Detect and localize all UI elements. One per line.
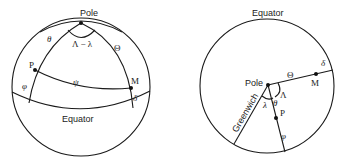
phi-label: φ <box>281 131 286 141</box>
equator-label: Equator <box>62 114 94 124</box>
point-m-dot <box>129 86 133 90</box>
Theta-label: Θ <box>114 43 121 53</box>
theta-label: θ <box>47 34 52 44</box>
pole-label: Pole <box>245 78 263 88</box>
pole-dot <box>79 21 83 25</box>
pole-dot <box>266 83 270 87</box>
point-p-dot <box>274 116 278 120</box>
spherical-geometry-figure: Pole Equator Λ − λ θ Θ ψ φ δ P M Equator… <box>0 0 344 161</box>
point-p-label: P <box>280 108 285 118</box>
point-m-label: M <box>311 78 319 88</box>
greenwich-label: Greenwich <box>230 92 260 134</box>
psi-label: ψ <box>73 77 79 87</box>
point-m-dot <box>314 72 318 76</box>
equator-arc <box>12 91 150 109</box>
point-m-label: M <box>131 76 139 86</box>
angle-arc <box>68 30 95 38</box>
angle-label: Λ − λ <box>72 39 93 49</box>
theta-label: θ <box>273 98 278 108</box>
lambda-label: λ <box>262 100 267 110</box>
delta-label: δ <box>321 58 326 68</box>
right-polar-diagram: Equator Pole Greenwich Θ δ M P Λ λ θ φ <box>200 8 334 153</box>
delta-label: δ <box>133 93 138 103</box>
pole-label: Pole <box>80 8 98 18</box>
phi-label: φ <box>22 81 27 91</box>
point-p-label: P <box>29 60 34 70</box>
Theta-label: Θ <box>287 70 294 80</box>
equator-label: Equator <box>252 8 284 18</box>
meridian-m-line <box>268 70 333 85</box>
left-sphere-diagram: Pole Equator Λ − λ θ Θ ψ φ δ P M <box>12 8 150 156</box>
Lambda-label: Λ <box>280 90 287 100</box>
great-circle-pm <box>35 70 131 89</box>
